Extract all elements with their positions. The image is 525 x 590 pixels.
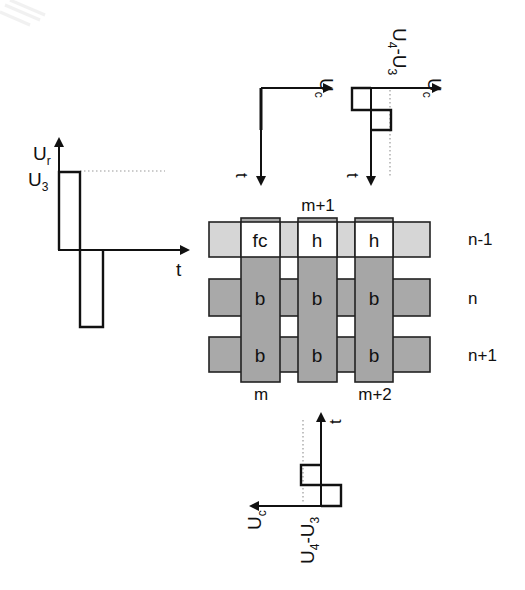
t-label: t [232,173,251,178]
cell-label: h [369,230,380,251]
t-label: t [326,419,345,424]
column-waveform-selected-top: Uc U4-U3 t [343,28,445,184]
cell-label: b [369,345,380,366]
column-label-m-plus-2: m+2 [358,385,392,404]
column-label-m: m [254,385,268,404]
cell-label: b [312,288,323,309]
cell-label: h [312,230,323,251]
column-waveform-selected-bottom: Uc U4-U3 t [244,414,345,564]
uc-label: Uc [244,510,269,530]
row-label-n: n [468,289,477,308]
row-label-n-plus-1: n+1 [468,346,497,365]
column-waveform-unselected: Uc t [232,78,337,184]
row-voltage-waveform: Ur U3 t [28,139,188,327]
cell-label: b [312,345,323,366]
cell-label: b [369,288,380,309]
cell-label: b [255,288,266,309]
crossbar-grid: fc h h b b b b b b m+1 m m+2 n-1 n n+1 [209,196,497,404]
u4-u3-label: U4-U3 [297,517,322,564]
cell-label: b [255,345,266,366]
u3-label: U3 [28,169,49,194]
t-label: t [343,173,362,178]
crossbar-drive-diagram: Ur U3 t Uc t Uc U4-U3 t fc h h [0,0,525,590]
t-label: t [176,259,182,280]
cell-label: fc [253,230,268,251]
ur-label: Ur [33,143,51,168]
corner-watermark [0,0,45,25]
u4-u3-label: U4-U3 [385,28,410,75]
row-label-n-minus-1: n-1 [468,230,493,249]
column-label-m-plus-1: m+1 [301,196,335,215]
